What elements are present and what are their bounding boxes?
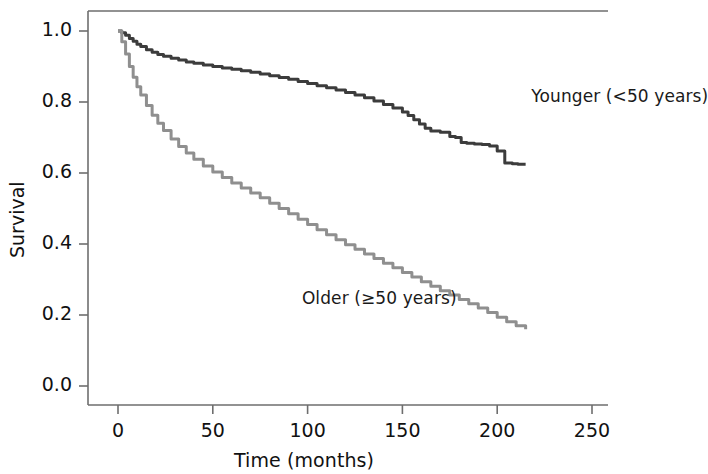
- y-axis-tick-marks: [79, 31, 88, 386]
- series-label-older: Older (≥50 years): [302, 288, 457, 308]
- y-tick-label: 1.0: [12, 18, 72, 40]
- x-tick-label: 100: [273, 419, 343, 441]
- y-tick-label: 0.0: [12, 373, 72, 395]
- y-tick-label: 0.8: [12, 89, 72, 111]
- x-axis-title: Time (months): [0, 449, 608, 471]
- y-tick-label: 0.6: [12, 160, 72, 182]
- x-tick-label: 200: [462, 419, 532, 441]
- x-axis-tick-marks: [118, 405, 592, 414]
- series-line-older: [118, 31, 526, 329]
- x-tick-label: 150: [367, 419, 437, 441]
- x-tick-label: 50: [178, 419, 248, 441]
- y-tick-label: 0.4: [12, 231, 72, 253]
- y-tick-label: 0.2: [12, 302, 72, 324]
- series-label-younger: Younger (<50 years): [531, 86, 708, 106]
- x-tick-label: 250: [557, 419, 627, 441]
- x-tick-label: 0: [83, 419, 153, 441]
- axis-spines: [88, 11, 608, 405]
- data-series-group: [118, 31, 526, 329]
